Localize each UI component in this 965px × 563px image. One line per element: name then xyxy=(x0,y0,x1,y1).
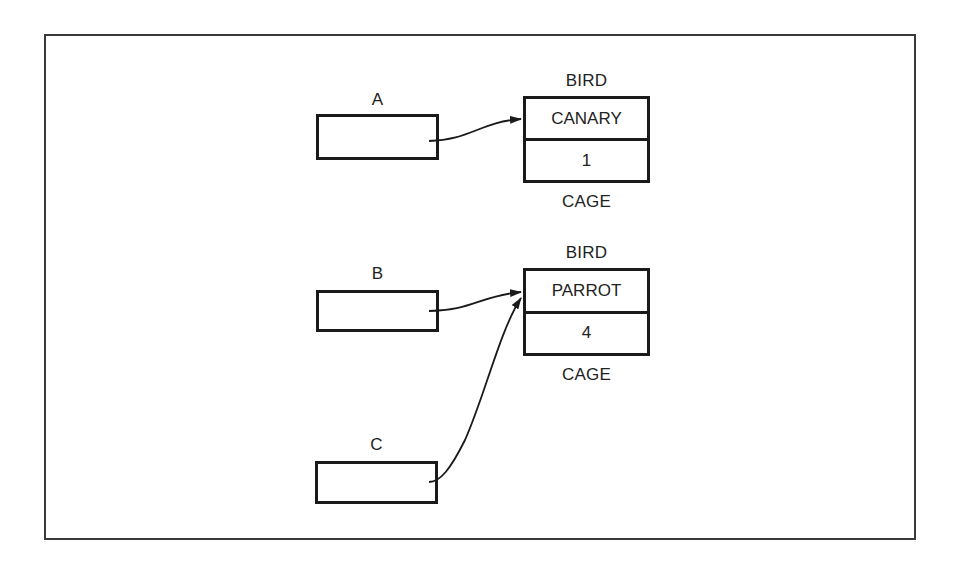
arrow-b-to-parrot xyxy=(429,292,521,311)
arrow-a-to-canary xyxy=(429,119,521,141)
pointer-arrows xyxy=(0,0,965,563)
arrow-c-to-parrot xyxy=(429,298,521,482)
